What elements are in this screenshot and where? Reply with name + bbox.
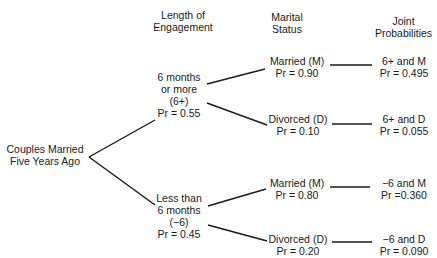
joint-6plus-and-m: 6+ and M Pr = 0.495: [372, 55, 436, 79]
node-married-lower: Married (M) Pr = 0.80: [263, 177, 331, 201]
edge-root-to-minus6: [89, 157, 155, 205]
node-divorced-upper: Divorced (D) Pr = 0.10: [263, 113, 333, 137]
node-less-than-6-months: Less than 6 months (−6) Pr = 0.45: [150, 192, 208, 240]
joint-6plus-and-d: 6+ and D Pr = 0.055: [372, 113, 436, 137]
edge-minus6-to-married: [208, 189, 266, 206]
header-joint-probabilities: Joint Probabilities: [370, 15, 437, 39]
joint-minus6-and-d: −6 and D Pr = 0.090: [372, 233, 436, 257]
joint-minus6-and-m: −6 and M Pr =0.360: [372, 177, 436, 201]
root-node: Couples Married Five Years Ago: [0, 143, 90, 167]
header-length-of-engagement: Length of Engagement: [143, 9, 223, 33]
node-6-months-or-more: 6 months or more (6+) Pr = 0.55: [150, 71, 208, 119]
node-divorced-lower: Divorced (D) Pr = 0.20: [263, 233, 333, 257]
edge-minus6-to-divorced: [208, 225, 267, 241]
edge-root-to-6plus: [89, 120, 155, 157]
edge-6plus-to-divorced: [207, 103, 267, 125]
header-marital-status: Marital Status: [262, 11, 312, 35]
edge-6plus-to-married: [207, 69, 265, 84]
node-married-upper: Married (M) Pr = 0.90: [263, 55, 331, 79]
